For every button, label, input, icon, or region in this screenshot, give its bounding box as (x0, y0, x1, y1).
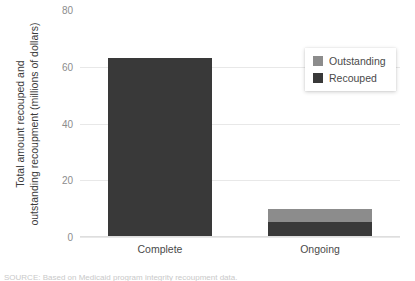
bar-group[interactable]: Complete (108, 58, 212, 236)
gridline (80, 237, 400, 238)
legend-label: Outstanding (329, 55, 386, 67)
bar-chart: Total amount recouped and outstanding re… (0, 0, 415, 281)
legend-swatch-icon (313, 56, 323, 66)
chart-footnote: SOURCE: Based on Medicaid program integr… (4, 272, 414, 281)
y-axis-title-line-1: Total amount recouped and (14, 0, 27, 248)
bar-segment-recouped[interactable] (268, 222, 372, 236)
legend-item[interactable]: Outstanding (313, 55, 386, 67)
legend-label: Recouped (329, 72, 377, 84)
y-axis-tick-label: 0 (67, 232, 73, 243)
x-axis-tick-label: Complete (138, 243, 183, 255)
y-axis-title-line-2: outstanding recoupment (millions of doll… (28, 0, 41, 248)
chart-legend: OutstandingRecouped (305, 48, 396, 91)
y-axis-tick-label: 40 (62, 118, 73, 129)
y-axis-tick-label: 20 (62, 175, 73, 186)
x-axis-tick-label: Ongoing (300, 243, 340, 255)
y-axis-title: Total amount recouped and outstanding re… (0, 0, 46, 252)
y-axis-tick-label: 80 (62, 5, 73, 16)
bar-segment-outstanding[interactable] (268, 209, 372, 223)
y-axis-tick-label: 60 (62, 61, 73, 72)
legend-swatch-icon (313, 73, 323, 83)
gridline (80, 10, 400, 11)
plot-area: 020406080CompleteOngoing (80, 10, 400, 237)
bar-segment-recouped[interactable] (108, 58, 212, 236)
legend-item[interactable]: Recouped (313, 72, 386, 84)
bar-group[interactable]: Ongoing (268, 208, 372, 236)
